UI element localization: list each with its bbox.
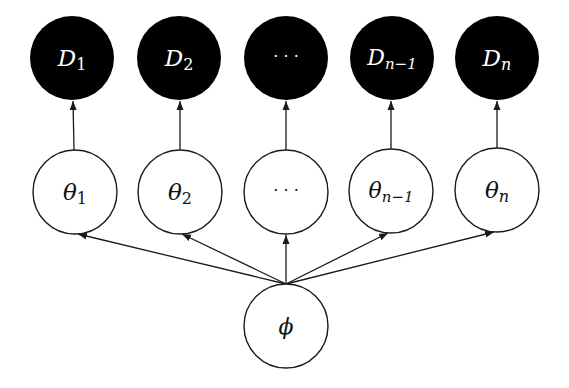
edge-phi-thetan-1: [286, 233, 388, 284]
node-theta-n-1: θn−1: [349, 149, 433, 233]
edges-phi-to-theta: [78, 232, 494, 284]
node-theta1-symbol: θ: [63, 179, 77, 205]
node-theta-n-subscript: n: [499, 187, 509, 206]
node-d2: D2: [137, 16, 221, 100]
node-dn-1-symbol: D: [366, 45, 385, 70]
node-theta-ellipsis-label: · · ·: [273, 181, 298, 200]
node-d2-symbol: D: [164, 45, 183, 71]
node-d-ellipsis: · · ·: [244, 16, 328, 100]
node-d1-symbol: D: [57, 45, 76, 71]
node-dn-symbol: D: [482, 45, 501, 71]
node-theta-ellipsis: · · ·: [244, 150, 328, 234]
observed-data-nodes: D1 D2 · · · Dn−1 Dn: [30, 16, 539, 100]
node-theta-n: θn: [455, 148, 539, 232]
node-theta1: θ1: [33, 150, 117, 234]
node-dn-subscript: n: [501, 55, 511, 74]
node-dn-1: Dn−1: [350, 16, 434, 100]
node-theta2: θ2: [138, 150, 222, 234]
edge-phi-theta1: [78, 234, 286, 284]
node-theta-n-1-subscript: n−1: [382, 188, 414, 206]
node-theta2-symbol: θ: [168, 179, 182, 205]
node-d-ellipsis-label: · · ·: [273, 47, 298, 66]
node-theta1-subscript: 1: [77, 189, 87, 208]
node-d2-subscript: 2: [183, 55, 193, 74]
node-phi-symbol: ϕ: [279, 314, 294, 339]
node-dn-1-subscript: n−1: [385, 55, 417, 73]
node-d1-subscript: 1: [76, 55, 86, 74]
graphical-model-diagram: D1 D2 · · · Dn−1 Dn: [0, 0, 569, 388]
edge-phi-thetan: [286, 232, 494, 284]
edges-theta-to-data: [73, 101, 497, 150]
edge-theta1-d1: [73, 101, 74, 150]
node-phi: ϕ: [244, 284, 328, 368]
node-theta-n-symbol: θ: [485, 177, 499, 203]
edge-phi-theta2: [182, 234, 286, 284]
node-dn: Dn: [455, 16, 539, 100]
node-theta2-subscript: 2: [182, 189, 192, 208]
node-d1: D1: [30, 16, 114, 100]
latent-theta-nodes: θ1 θ2 · · · θn−1 θn: [33, 148, 539, 234]
node-theta-n-1-symbol: θ: [368, 178, 381, 203]
